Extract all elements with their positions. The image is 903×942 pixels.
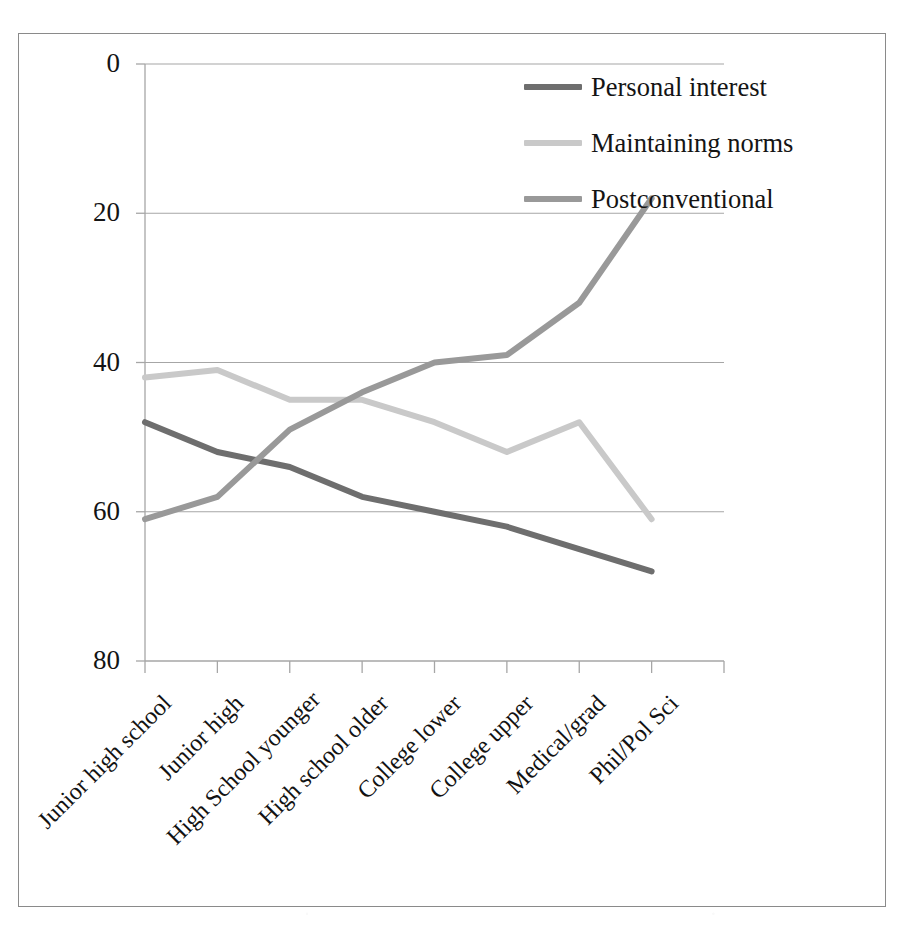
series-line-postconventional xyxy=(145,198,652,519)
legend-item-label: Postconventional xyxy=(591,186,774,213)
axes-group xyxy=(136,64,145,661)
x-tick-marks-group xyxy=(145,661,724,673)
legend-item-personal-interest[interactable]: Personal interest xyxy=(524,74,767,101)
legend-swatch-icon xyxy=(524,196,582,202)
legend-swatch-icon xyxy=(524,140,582,146)
legend-item-postconventional[interactable]: Postconventional xyxy=(524,186,774,213)
y-axis-label-80: 0 xyxy=(60,50,120,77)
y-axis-label-60: 20 xyxy=(60,199,120,226)
y-axis-label-40: 40 xyxy=(60,349,120,376)
series-lines-group xyxy=(145,198,652,571)
legend-item-maintaining-norms[interactable]: Maintaining norms xyxy=(524,130,793,157)
y-axis-label-20: 60 xyxy=(60,498,120,525)
y-axis-label-0: 80 xyxy=(60,647,120,674)
chart-figure: 806040200 Personal interestMaintaining n… xyxy=(18,33,886,907)
legend-item-label: Personal interest xyxy=(591,74,767,101)
legend-swatch-icon xyxy=(524,84,582,90)
legend-item-label: Maintaining norms xyxy=(591,130,793,157)
